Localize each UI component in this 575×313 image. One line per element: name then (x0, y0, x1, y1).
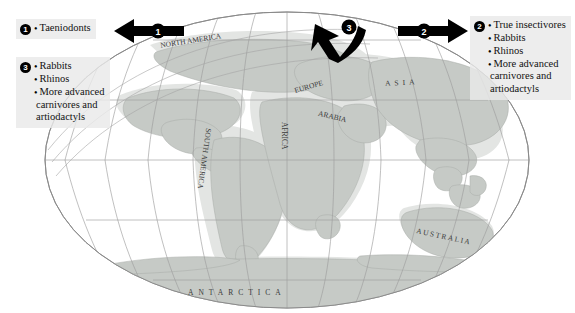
arrow-2-glyph: 2 (392, 18, 470, 44)
arrow-3-glyph: 3 (306, 14, 368, 64)
callout-3-cont-0: carnivores and (20, 99, 105, 112)
callout-3-item-1: Rhinos (40, 73, 70, 86)
bullet-icon: • (34, 75, 38, 85)
arrow-3-number: 3 (346, 23, 351, 33)
arrow-1: 1 (112, 18, 190, 44)
bullet-icon: • (488, 47, 492, 57)
callout-3-item-2: More advanced (40, 86, 105, 99)
callout-2-item-3: More advanced (494, 58, 559, 71)
arrow-2: 2 (392, 18, 470, 44)
arrow-1-number: 1 (155, 27, 160, 37)
arrow-3: 3 (306, 14, 368, 64)
callout-2-cont-0: carnivores and (474, 70, 566, 83)
bullet-icon: • (34, 62, 38, 72)
callout-3-cont-1: artiodactyls (20, 111, 105, 124)
callout-2-row-1: • Rabbits (474, 32, 566, 45)
callout-1: 1 • Taeniodonts (16, 19, 96, 39)
callout-1-row-0: 1 • Taeniodonts (20, 22, 91, 35)
arrow-1-glyph: 1 (112, 18, 190, 44)
callout-3-row-2: • More advanced (20, 86, 105, 99)
callout-2-item-0: True insectivores (494, 19, 566, 32)
callout-2-cont-1: artiodactyls (474, 83, 566, 96)
callout-2: 2 • True insectivores • Rabbits • Rhinos… (470, 16, 571, 100)
callout-3: 3 • Rabbits • Rhinos • More advanced car… (16, 57, 110, 128)
callout-2-item-1: Rabbits (494, 32, 526, 45)
callout-1-badge: 1 (20, 24, 31, 35)
bullet-icon: • (488, 34, 492, 44)
callout-1-item-0: Taeniodonts (40, 22, 91, 35)
callout-3-row-1: • Rhinos (20, 73, 105, 86)
bullet-icon: • (34, 24, 38, 34)
callout-3-badge: 3 (20, 62, 31, 73)
figure-root: NORTH AMERICA SOUTH AMERICA AFRICA ARABI… (0, 0, 575, 313)
callout-2-row-3: • More advanced (474, 58, 566, 71)
bullet-icon: • (34, 88, 38, 98)
callout-2-badge: 2 (474, 21, 485, 32)
callout-2-item-2: Rhinos (494, 45, 524, 58)
bullet-icon: • (488, 21, 492, 31)
callout-2-row-2: • Rhinos (474, 45, 566, 58)
bullet-icon: • (488, 60, 492, 70)
arrow-2-number: 2 (421, 27, 426, 37)
callout-3-item-0: Rabbits (40, 60, 72, 73)
callout-3-row-0: 3 • Rabbits (20, 60, 105, 73)
callout-2-row-0: 2 • True insectivores (474, 19, 566, 32)
